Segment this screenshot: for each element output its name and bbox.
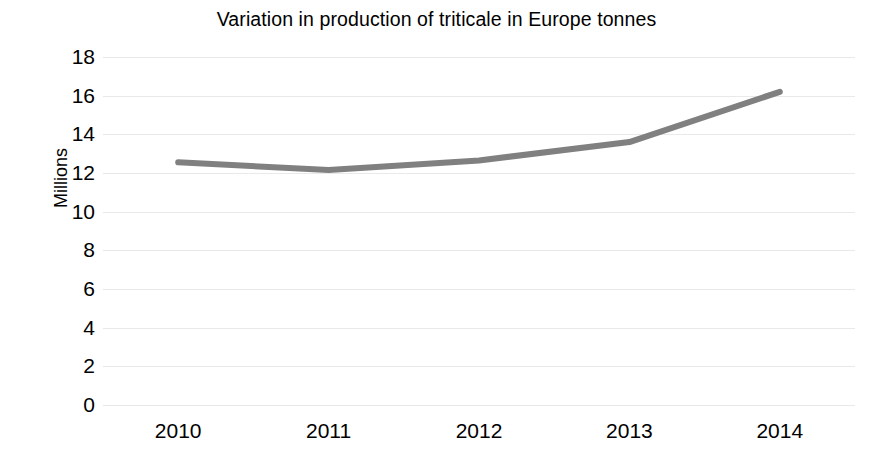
series-line [178,92,780,170]
x-axis-tick-label: 2012 [419,418,539,444]
data-series-layer [103,57,855,405]
y-axis-tick-label: 18 [49,46,95,67]
y-axis-tick-label: 8 [49,239,95,260]
y-axis-tick-label: 4 [49,317,95,338]
gridline [103,405,855,406]
x-axis-tick-label: 2011 [269,418,389,444]
plot-area [103,57,855,405]
y-axis-tick-label: 16 [49,85,95,106]
y-axis-tick-label: 10 [49,201,95,222]
x-axis-tick-label: 2010 [118,418,238,444]
x-axis-tick-label: 2014 [720,418,840,444]
y-axis-tick-label: 2 [49,355,95,376]
y-axis-tick-labels: 024681012141618 [45,57,95,405]
x-axis-tick-label: 2013 [569,418,689,444]
chart-title: Variation in production of triticale in … [0,7,873,31]
y-axis-tick-label: 12 [49,162,95,183]
y-axis-tick-label: 0 [49,394,95,415]
y-axis-tick-label: 6 [49,278,95,299]
y-axis-tick-label: 14 [49,123,95,144]
x-axis-tick-labels: 20102011201220132014 [103,418,855,452]
chart-container: Variation in production of triticale in … [0,0,873,470]
